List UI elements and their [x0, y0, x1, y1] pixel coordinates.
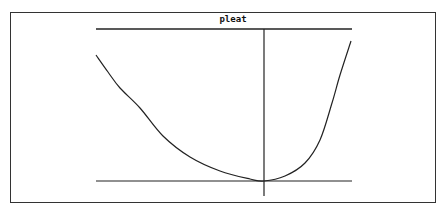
plot-area	[0, 0, 445, 206]
data-curve	[96, 41, 351, 181]
